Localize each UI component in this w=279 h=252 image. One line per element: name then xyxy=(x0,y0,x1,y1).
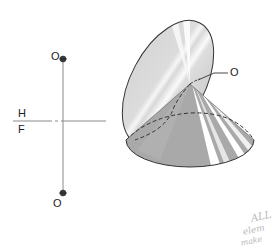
geometry-drawing xyxy=(0,0,279,252)
reference-label-h: H xyxy=(18,108,26,119)
pictorial-view xyxy=(103,6,254,170)
bottom-point-label: O xyxy=(53,198,62,209)
top-point-label: O xyxy=(51,51,60,62)
projection-view xyxy=(13,56,106,196)
vertex-label: O xyxy=(230,67,239,78)
reference-label-f: F xyxy=(18,124,25,135)
figure-canvas: O O H F O ALL elem make xyxy=(0,0,279,252)
